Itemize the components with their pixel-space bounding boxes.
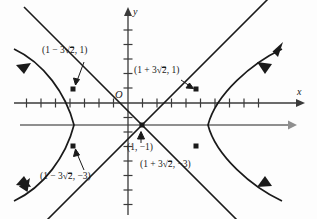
lower-right-suffix: , −3) <box>173 159 191 169</box>
point-label-lower-left: (1 − 3√2, −3) <box>40 172 91 182</box>
asymptote-positive-slope <box>19 0 283 219</box>
point-label-lower-right: (1 + 3√2, −3) <box>140 160 191 170</box>
hyperbola-figure: x y O (1 − 3√2, 1) (1 + 3√2, 1) (1 − 3√2… <box>0 0 317 219</box>
upper-right-prefix: (1 + 3 <box>134 65 157 75</box>
lower-right-prefix: (1 + 3 <box>140 159 163 169</box>
upper-right-radical: √2 <box>157 66 167 76</box>
point-label-upper-left: (1 − 3√2, 1) <box>42 46 87 56</box>
x-axis <box>14 99 305 108</box>
origin-label: O <box>115 89 123 100</box>
lower-left-suffix: , −3) <box>73 171 91 181</box>
lower-left-radical: √2 <box>63 172 73 182</box>
upper-left-prefix: (1 − 3 <box>42 45 65 55</box>
upper-left-radical: √2 <box>65 46 75 56</box>
gray-horizontal-line <box>20 121 297 130</box>
point-label-upper-right: (1 + 3√2, 1) <box>134 66 179 76</box>
y-axis-label: y <box>133 6 137 17</box>
upper-right-suffix: , 1) <box>167 65 180 75</box>
graph-canvas <box>0 0 317 219</box>
center-point-label: (1, −1) <box>127 143 153 153</box>
lower-right-radical: √2 <box>163 160 173 170</box>
upper-left-suffix: , 1) <box>75 45 88 55</box>
asymptote-negative-slope <box>24 7 281 219</box>
x-axis-label: x <box>297 86 301 97</box>
lower-left-prefix: (1 − 3 <box>40 171 63 181</box>
